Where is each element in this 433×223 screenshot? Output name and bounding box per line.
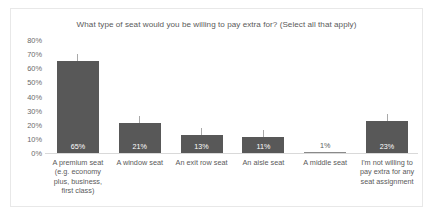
error-bar	[201, 128, 202, 135]
x-axis-category-label-line: A middle seat	[295, 158, 355, 167]
x-axis-category-label: A window seat	[109, 158, 171, 167]
x-axis-category-label-line: (e.g. economy	[48, 167, 108, 176]
bar-value-label: 13%	[181, 142, 223, 151]
x-axis-category-label-line: A premium seat	[48, 158, 108, 167]
y-axis-tick-label: 70%	[27, 50, 42, 59]
error-bar	[139, 116, 140, 123]
bar-slot: 21%	[109, 40, 171, 153]
x-axis-category-label: An aisle seat	[232, 158, 294, 167]
x-axis-category-label-line: first class)	[48, 186, 108, 195]
x-axis-category-label: A middle seat	[294, 158, 356, 167]
x-axis-category-label-line: plus, business,	[48, 177, 108, 186]
x-axis-category-label: A premium seat(e.g. economyplus, busines…	[47, 158, 109, 196]
x-axis-category-label-line: I'm not willing to	[357, 158, 417, 167]
chart-container: What type of seat would you be willing t…	[10, 8, 423, 207]
x-axis-category-label: An exit row seat	[171, 158, 233, 167]
x-axis-category-label: I'm not willing topay extra for anyseat …	[356, 158, 418, 186]
y-axis-tick-label: 10%	[27, 134, 42, 143]
x-axis-labels: A premium seat(e.g. economyplus, busines…	[47, 158, 418, 196]
bar-slot: 23%	[356, 40, 418, 153]
bar[interactable]: 23%	[366, 121, 408, 153]
bar[interactable]: 1%	[304, 152, 346, 153]
y-axis-tick-label: 30%	[27, 106, 42, 115]
y-axis-tick-label: 50%	[27, 78, 42, 87]
bar-slot: 65%	[47, 40, 109, 153]
x-axis-category-label-line: pay extra for any	[357, 167, 417, 176]
bar-value-label: 1%	[304, 141, 346, 150]
bar[interactable]: 65%	[57, 61, 99, 153]
y-axis-tick-label: 60%	[27, 64, 42, 73]
x-axis-category-label-line: An aisle seat	[233, 158, 293, 167]
bar-series: 65%21%13%11%1%23%	[47, 40, 418, 153]
x-axis-category-label-line: An exit row seat	[172, 158, 232, 167]
bar-slot: 1%	[294, 40, 356, 153]
bar-value-label: 11%	[242, 142, 284, 151]
x-axis-category-label-line: A window seat	[110, 158, 170, 167]
error-bar	[77, 54, 78, 61]
error-bar	[387, 114, 388, 121]
bar-slot: 11%	[232, 40, 294, 153]
bar[interactable]: 21%	[119, 123, 161, 153]
y-axis-tick-label: 40%	[27, 92, 42, 101]
bar-value-label: 23%	[366, 142, 408, 151]
x-axis-category-label-line: seat assignment	[357, 177, 417, 186]
x-axis-line	[45, 153, 418, 154]
bar-value-label: 65%	[57, 142, 99, 151]
bar[interactable]: 11%	[242, 137, 284, 153]
bar-value-label: 21%	[119, 142, 161, 151]
y-axis-tick-label: 80%	[27, 36, 42, 45]
y-axis-tick-label: 0%	[31, 149, 42, 158]
error-bar	[263, 130, 264, 137]
chart-title: What type of seat would you be willing t…	[11, 20, 422, 29]
bar[interactable]: 13%	[181, 135, 223, 153]
bar-slot: 13%	[171, 40, 233, 153]
y-axis: 80%70%60%50%40%30%20%10%0%	[11, 40, 45, 153]
y-axis-tick-label: 20%	[27, 120, 42, 129]
